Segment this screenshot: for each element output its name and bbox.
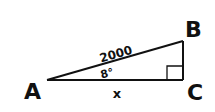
vertex-b-label: B [185,17,202,42]
base-length-label: x [113,86,122,101]
vertex-a-label: A [24,79,41,104]
triangle-diagram: A B C 2000 8° x [0,0,215,112]
right-angle-marker-icon [167,66,183,80]
hypotenuse-length-label: 2000 [98,43,134,66]
vertex-c-label: C [187,80,203,105]
